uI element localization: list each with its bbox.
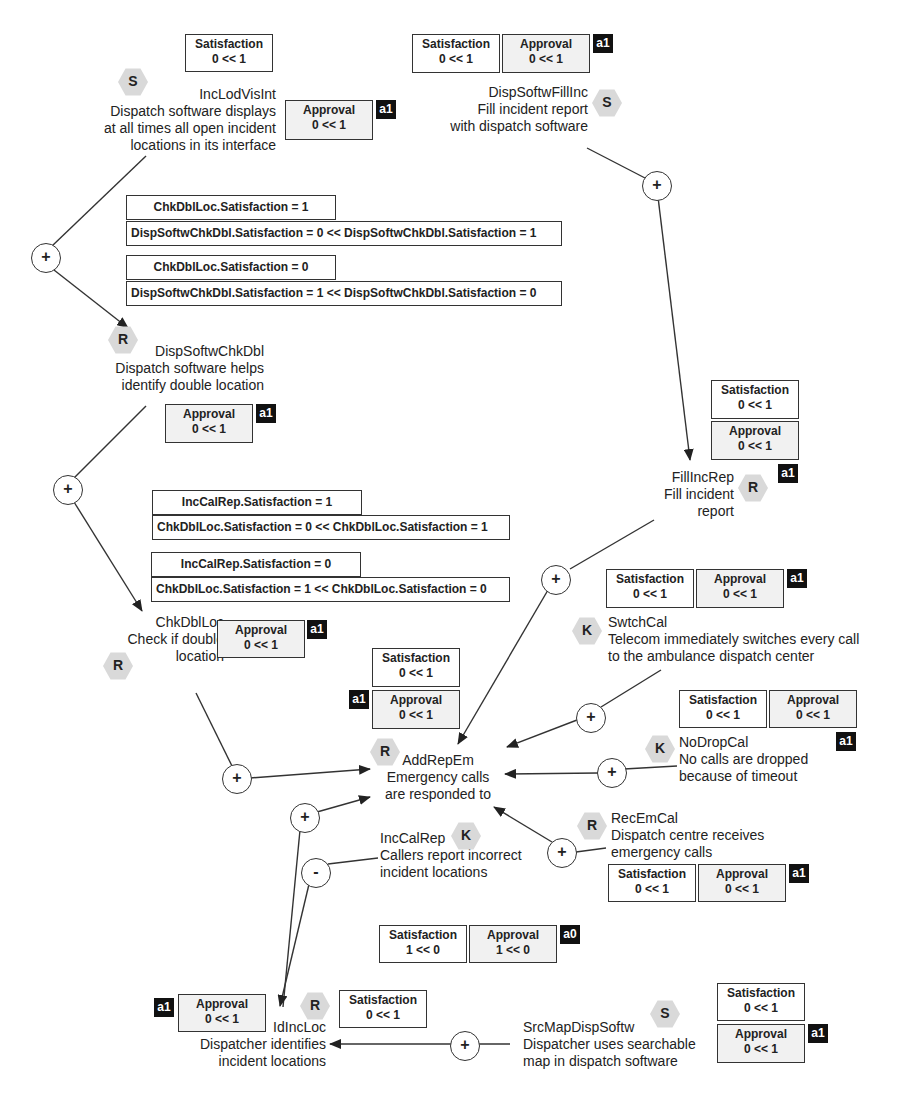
goal-id: IncCalRep — [380, 830, 522, 847]
goal-id: FillIncRep — [664, 469, 734, 486]
and-operator-plus[interactable]: + — [450, 1031, 480, 1061]
edge-op-to-idincloc — [280, 880, 310, 1006]
and-operator-plus[interactable]: + — [597, 758, 627, 788]
satisfaction-value: 0 << 1 — [680, 708, 766, 723]
chkdblloc-approval-box: Approval 0 << 1 — [217, 620, 305, 658]
addrepem-goal[interactable]: AddRepEm Emergency calls are responded t… — [378, 752, 498, 803]
fillincrep-satisfaction-box: Satisfaction 0 << 1 — [711, 380, 799, 419]
satisfaction-value: 0 << 1 — [373, 666, 459, 681]
and-operator-plus[interactable]: + — [576, 703, 606, 733]
and-operator-plus[interactable]: + — [31, 243, 61, 273]
goal-line: are responded to — [378, 786, 498, 803]
goal-line: Fill incident report — [450, 101, 588, 118]
approval-value: 0 << 1 — [286, 118, 372, 133]
and-operator-plus[interactable]: + — [547, 838, 577, 868]
approval-value: 0 << 1 — [712, 439, 798, 454]
satisfaction-value: 0 << 1 — [186, 52, 272, 67]
inccalrep-approval-box: Approval 1 << 0 — [469, 925, 557, 963]
approval-label: Approval — [503, 37, 589, 52]
condition-head: ChkDblLoc.Satisfaction = 1 — [126, 195, 336, 220]
and-operator-plus[interactable]: + — [53, 475, 83, 505]
approval-value: 0 << 1 — [697, 587, 783, 602]
approval-value: 0 << 1 — [373, 708, 459, 723]
dispsoftwchkdbl-goal[interactable]: DispSoftwChkDbl Dispatch software helps … — [115, 343, 264, 394]
goal-id: DispSoftwChkDbl — [115, 343, 264, 360]
goal-id: IncLodVisInt — [104, 86, 276, 103]
recemcal-goal[interactable]: RecEmCal Dispatch centre receives emerge… — [611, 810, 764, 861]
goal-line: emergency calls — [611, 844, 764, 861]
condition-head: IncCalRep.Satisfaction = 0 — [151, 552, 361, 577]
satisfaction-value: 1 << 0 — [380, 943, 466, 958]
inclodvisint-goal[interactable]: IncLodVisInt Dispatch software displays … — [104, 86, 276, 154]
goal-line: because of timeout — [679, 768, 808, 785]
goal-line: incident locations — [380, 864, 522, 881]
a1-tag: a1 — [789, 864, 809, 883]
a1-tag: a1 — [778, 464, 798, 483]
goal-line: Dispatch software displays — [104, 103, 276, 120]
goal-line: incident locations — [200, 1053, 326, 1070]
and-operator-plus[interactable]: + — [222, 764, 252, 794]
swtchcal-goal[interactable]: SwtchCal Telecom immediately switches ev… — [608, 614, 859, 665]
recemcal-satisfaction-box: Satisfaction 0 << 1 — [608, 864, 696, 902]
recemcal-approval-box: Approval 0 << 1 — [698, 864, 786, 902]
edge-nodropcal-to-op — [624, 766, 677, 769]
edge-op-to-addrepem-2 — [250, 769, 370, 778]
addrepem-approval-box: Approval 0 << 1 — [372, 690, 460, 729]
requirement-r-icon: R — [300, 992, 330, 1020]
approval-value: 0 << 1 — [218, 638, 304, 653]
srcmapdispsoftw-satisfaction-box: Satisfaction 0 << 1 — [717, 983, 805, 1021]
approval-label: Approval — [697, 572, 783, 587]
goal-id: NoDropCal — [679, 734, 808, 751]
dispsoftwfillinc-approval-box: Approval 0 << 1 — [502, 34, 590, 73]
approval-label: Approval — [179, 997, 265, 1012]
goal-line: with dispatch software — [450, 118, 588, 135]
satisfaction-label: Satisfaction — [609, 867, 695, 882]
inclodvisint-approval-box: Approval 0 << 1 — [285, 100, 373, 140]
goal-line: at all times all open incident — [104, 120, 276, 137]
satisfaction-label: Satisfaction — [380, 928, 466, 943]
satisfaction-value: 0 << 1 — [712, 398, 798, 413]
satisfaction-value: 0 << 1 — [607, 587, 693, 602]
goal-line: Dispatch software helps — [115, 360, 264, 377]
satisfaction-label: Satisfaction — [186, 37, 272, 52]
edge-inccalrep-to-op — [328, 858, 378, 864]
or-operator-minus[interactable]: - — [301, 858, 331, 888]
srcmapdispsoftw-goal[interactable]: SrcMapDispSoftw Dispatcher uses searchab… — [523, 1019, 696, 1070]
fillincrep-goal[interactable]: FillIncRep Fill incident report — [664, 469, 734, 520]
edge-idincloc-to-op — [283, 830, 300, 1007]
satisfaction-label: Satisfaction — [680, 693, 766, 708]
dispsoftwfillinc-goal[interactable]: DispSoftwFillInc Fill incident report wi… — [450, 84, 588, 135]
and-operator-plus[interactable]: + — [541, 565, 571, 595]
srcmapdispsoftw-approval-box: Approval 0 << 1 — [717, 1024, 805, 1063]
approval-value: 0 << 1 — [718, 1042, 804, 1057]
a1-tag: a1 — [836, 732, 856, 751]
swtchcal-satisfaction-box: Satisfaction 0 << 1 — [606, 569, 694, 608]
idincloc-goal[interactable]: IdIncLoc Dispatcher identifies incident … — [200, 1019, 326, 1070]
edge-swtchcal-to-op — [601, 670, 661, 707]
edge-fillincrep-to-op — [570, 520, 654, 569]
edge-recemcal-to-op — [576, 848, 606, 852]
goal-line: Dispatcher uses searchable — [523, 1036, 696, 1053]
edge-op-to-addrepem-3 — [507, 720, 577, 747]
inccalrep-goal[interactable]: IncCalRep Callers report incorrect incid… — [380, 830, 522, 881]
and-operator-plus[interactable]: + — [642, 171, 672, 201]
nodropcal-goal[interactable]: NoDropCal No calls are dropped because o… — [679, 734, 808, 785]
goal-id: IdIncLoc — [200, 1019, 326, 1036]
edge-op-to-addrepem — [458, 590, 548, 744]
nodropcal-satisfaction-box: Satisfaction 0 << 1 — [679, 690, 767, 728]
edge-op-to-chkdblloc — [74, 502, 142, 611]
satisfaction-label: Satisfaction — [413, 37, 499, 52]
and-operator-plus[interactable]: + — [290, 803, 320, 833]
goal-line: Check if double — [127, 631, 224, 648]
approval-label: Approval — [718, 1027, 804, 1042]
approval-label: Approval — [699, 867, 785, 882]
a1-tag: a1 — [376, 100, 396, 119]
goal-id: SwtchCal — [608, 614, 859, 631]
addrepem-satisfaction-box: Satisfaction 0 << 1 — [372, 648, 460, 687]
goal-id: RecEmCal — [611, 810, 764, 827]
chkdblloc-goal[interactable]: ChkDblLoc Check if double location — [127, 614, 224, 665]
goal-line: Dispatch centre receives — [611, 827, 764, 844]
approval-label: Approval — [712, 424, 798, 439]
fillincrep-approval-box: Approval 0 << 1 — [711, 421, 799, 460]
edge-op-to-addrepem-4 — [505, 773, 598, 774]
